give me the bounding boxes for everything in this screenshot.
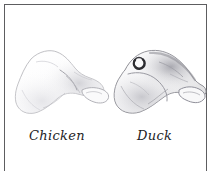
specimen-figure-duck [104, 44, 208, 122]
specimen-plate: Chicken Duck [0, 0, 212, 171]
specimen-figure-chicken [8, 46, 114, 122]
specimen-label-duck: Duck [137, 129, 172, 142]
bone-specimen-icon [8, 46, 114, 122]
specimen-label-chicken: Chicken [29, 129, 85, 142]
bone-specimen-icon [104, 44, 208, 122]
